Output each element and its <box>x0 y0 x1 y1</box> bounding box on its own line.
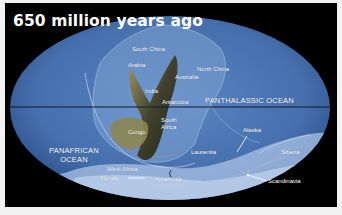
map-title: 650 million years ago <box>13 12 203 30</box>
label-laurentia: Laurentia <box>191 149 216 155</box>
label-west-africa: West Africa <box>107 166 137 172</box>
label-panafrican-ocean: PANAFRICAN OCEAN <box>49 146 99 164</box>
label-india: India <box>145 88 158 94</box>
label-north-china: North China <box>197 66 229 72</box>
label-amazonia: Amazonia <box>155 176 182 182</box>
label-alaska: Alaska <box>243 127 261 133</box>
label-arabia: Arabia <box>128 62 145 68</box>
label-florida: Florida <box>100 175 118 181</box>
label-antarctica: Antarctica <box>162 99 189 105</box>
label-congo: Congo <box>128 129 146 135</box>
label-australia: Australia <box>175 74 198 80</box>
label-south-china: South China <box>132 46 165 52</box>
label-south-africa: South Africa <box>161 117 179 131</box>
map-panel: 650 million years ago South China Arabia… <box>5 3 337 207</box>
label-scandinavia: Scandinavia <box>268 178 301 184</box>
label-panthalassic-ocean: PANTHALASSIC OCEAN <box>205 96 294 105</box>
